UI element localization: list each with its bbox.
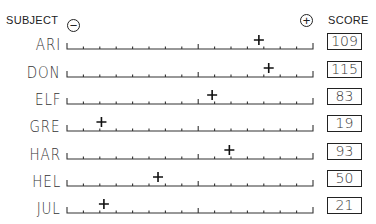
subject-label: DON xyxy=(27,64,61,82)
score-box: 109 xyxy=(327,33,362,50)
table-row: ELF83 xyxy=(0,85,376,111)
table-row: GRE19 xyxy=(0,112,376,138)
subject-label: ARI xyxy=(36,36,61,54)
score-axis xyxy=(64,167,320,193)
score-box: 115 xyxy=(327,61,362,78)
score-axis xyxy=(64,85,320,111)
table-row: HEL50 xyxy=(0,167,376,193)
score-box: 50 xyxy=(327,170,362,187)
plus-marker-icon xyxy=(224,145,234,155)
score-axis xyxy=(64,58,320,84)
score-axis xyxy=(64,112,320,138)
plus-marker-icon xyxy=(254,35,264,45)
subject-label: HAR xyxy=(30,146,61,164)
score-axis xyxy=(64,30,320,56)
table-row: DON115 xyxy=(0,58,376,84)
plus-marker-icon xyxy=(153,172,163,182)
subject-label: ELF xyxy=(34,91,61,109)
table-row: ARI109 xyxy=(0,30,376,56)
plus-marker-icon xyxy=(99,199,109,209)
plus-circle-icon: + xyxy=(300,14,313,27)
score-header: SCORE xyxy=(328,14,369,26)
score-axis xyxy=(64,194,320,220)
subject-header: SUBJECT xyxy=(6,14,58,26)
score-axis xyxy=(64,140,320,166)
table-row: HAR93 xyxy=(0,140,376,166)
plus-marker-icon xyxy=(264,63,274,73)
plus-marker-icon xyxy=(207,90,217,100)
score-box: 21 xyxy=(327,197,362,214)
plus-marker-icon xyxy=(96,117,106,127)
subject-label: JUL xyxy=(37,200,61,218)
table-row: JUL21 xyxy=(0,194,376,220)
subject-label: HEL xyxy=(32,173,61,191)
score-box: 83 xyxy=(327,88,362,105)
score-box: 93 xyxy=(327,143,362,160)
subject-label: GRE xyxy=(30,118,61,136)
score-box: 19 xyxy=(327,115,362,132)
